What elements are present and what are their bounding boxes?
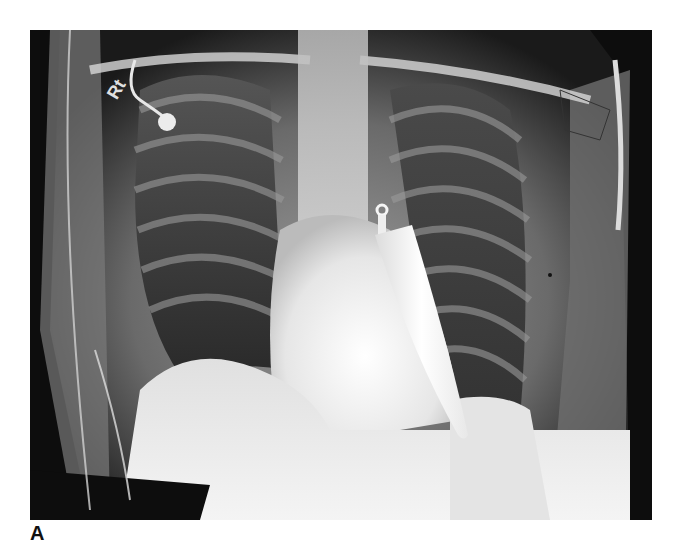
panel-label: A xyxy=(30,522,44,544)
chest-xray-image: Rt xyxy=(30,30,652,520)
figure-panel: Rt A xyxy=(0,0,684,550)
xray-illustration: Rt xyxy=(30,30,652,520)
